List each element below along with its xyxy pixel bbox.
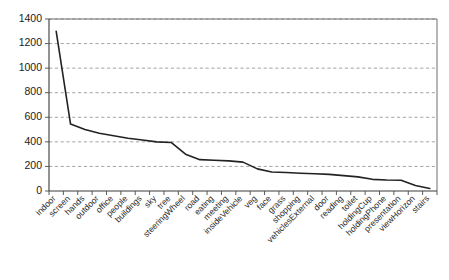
chart-container: 0200400600800100012001400 indoorscreenha…	[0, 0, 449, 280]
y-axis-tick-label: 400	[24, 135, 42, 147]
chart-background	[0, 0, 449, 280]
y-axis-tick-label: 200	[24, 159, 42, 171]
y-axis-tick-label: 1200	[19, 36, 43, 48]
y-axis-tick-label: 800	[24, 85, 42, 97]
y-axis-tick-label: 1000	[19, 61, 43, 73]
y-axis-tick-label: 600	[24, 110, 42, 122]
y-axis-tick-label: 0	[36, 184, 42, 196]
line-chart: 0200400600800100012001400 indoorscreenha…	[0, 0, 449, 280]
y-axis-tick-label: 1400	[19, 12, 43, 24]
